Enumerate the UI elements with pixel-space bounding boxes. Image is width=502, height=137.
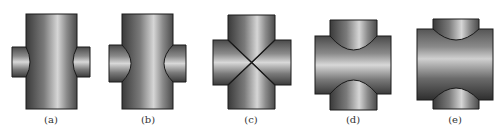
left-branch [12,47,30,77]
caption-a: (a) [44,114,58,125]
main-pipe [26,14,77,109]
caption-c: (c) [244,114,257,125]
panel-a [12,14,90,109]
panel-d [315,20,391,110]
caption-b: (b) [141,114,155,125]
panel-c [213,15,291,109]
caption-e: (e) [448,114,462,125]
panel-b [109,14,186,109]
panel-e [417,19,493,109]
right-branch [73,47,90,77]
caption-d: (d) [346,114,360,125]
